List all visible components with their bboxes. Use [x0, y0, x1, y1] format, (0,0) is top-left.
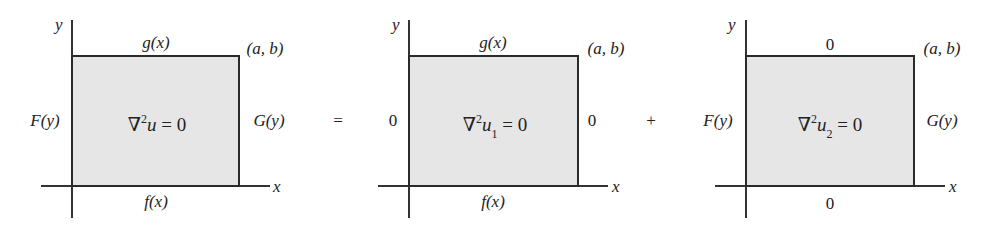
top-boundary-label: g(x): [479, 34, 506, 51]
x-axis-label: x: [273, 178, 281, 195]
right-boundary-label: G(y): [253, 112, 284, 129]
bottom-boundary-label: 0: [826, 195, 835, 212]
equals-sign: =: [333, 112, 343, 129]
laplace-equation: ∇2u = 0: [128, 115, 187, 134]
y-axis-label: y: [392, 16, 400, 33]
bottom-boundary-label: f(x): [144, 193, 168, 210]
laplace-equation: ∇2u1 = 0: [463, 115, 528, 134]
corner-label: (a, b): [588, 40, 625, 57]
top-boundary-label: 0: [826, 36, 835, 53]
plus-sign: +: [646, 112, 656, 129]
right-boundary-label: G(y): [926, 112, 957, 129]
left-boundary-label: 0: [389, 112, 398, 129]
top-boundary-label: g(x): [142, 34, 169, 51]
x-axis-label: x: [949, 178, 957, 195]
corner-label: (a, b): [924, 40, 961, 57]
x-axis-label: x: [612, 178, 620, 195]
laplace-equation: ∇2u2 = 0: [798, 115, 863, 134]
y-axis-label: y: [728, 16, 736, 33]
left-boundary-label: F(y): [30, 112, 59, 129]
y-axis-label: y: [55, 16, 63, 33]
right-boundary-label: 0: [588, 112, 597, 129]
corner-label: (a, b): [247, 40, 284, 57]
bottom-boundary-label: f(x): [481, 193, 505, 210]
left-boundary-label: F(y): [703, 112, 732, 129]
